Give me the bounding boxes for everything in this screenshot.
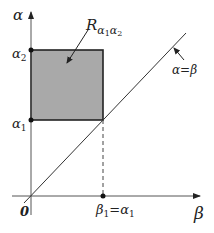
beta1-equals-alpha1-label: β1=α1 (95, 202, 135, 219)
diagram-figure: α β 0 α2 α1 β1=α1 Rα1α2 α=β (0, 0, 214, 233)
tick-point-beta1 (101, 194, 106, 199)
y-axis-label: α (13, 6, 23, 24)
tick-point-alpha2 (29, 48, 34, 53)
alpha1-label: α1 (12, 116, 27, 133)
diagram-canvas: α β 0 α2 α1 β1=α1 Rα1α2 α=β (0, 0, 214, 233)
line-pointer-arrow (174, 48, 184, 60)
alpha2-label: α2 (12, 46, 27, 63)
x-axis-label: β (193, 203, 204, 223)
identity-line-label: α=β (172, 63, 197, 77)
region-label: Rα1α2 (85, 16, 122, 38)
tick-point-alpha1 (29, 118, 34, 123)
origin-label: 0 (20, 204, 29, 219)
region-rectangle (31, 50, 103, 120)
